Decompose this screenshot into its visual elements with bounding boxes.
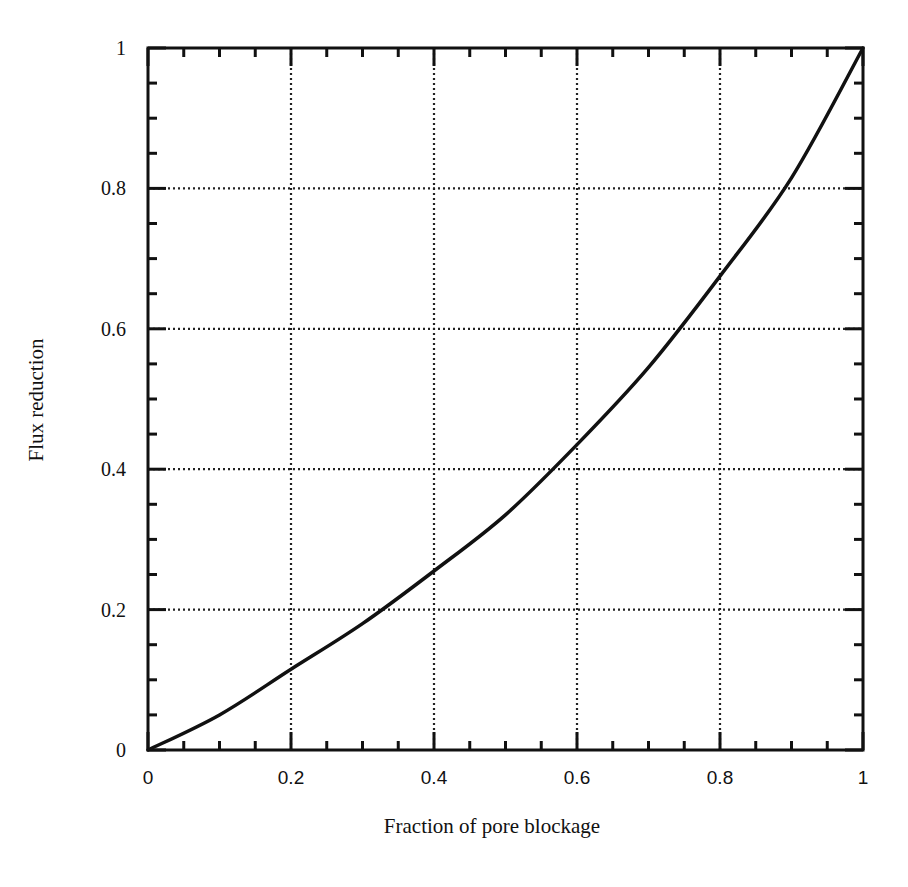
- x-tick-label: 0.4: [421, 767, 448, 788]
- plot-frame: [148, 48, 863, 750]
- x-tick-label: 0.2: [278, 767, 304, 788]
- y-tick-label: 0: [116, 739, 126, 761]
- flux-reduction-curve: [148, 48, 863, 750]
- line-chart: 00.20.40.60.81 00.20.40.60.81 Fraction o…: [0, 0, 908, 887]
- minor-ticks: [148, 48, 863, 750]
- y-axis-title: Flux reduction: [24, 338, 48, 462]
- x-tick-label: 0: [143, 767, 154, 788]
- x-tick-label: 0.6: [564, 767, 590, 788]
- x-axis-title: Fraction of pore blockage: [384, 814, 600, 838]
- y-tick-label: 0.8: [101, 177, 126, 199]
- y-tick-label: 0.2: [101, 599, 126, 621]
- y-tick-label: 0.4: [101, 458, 126, 480]
- grid-lines: [148, 48, 863, 750]
- y-tick-label: 1: [116, 37, 126, 59]
- x-axis-ticks: 00.20.40.60.81: [143, 48, 869, 788]
- y-tick-label: 0.6: [101, 318, 126, 340]
- y-axis-ticks: 00.20.40.60.81: [101, 37, 863, 761]
- x-tick-label: 0.8: [707, 767, 733, 788]
- x-tick-label: 1: [858, 767, 869, 788]
